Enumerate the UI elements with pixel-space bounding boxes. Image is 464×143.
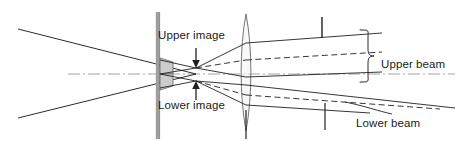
upper-beam-edge-top-out bbox=[246, 33, 382, 43]
upper-beam-edge-top-in bbox=[196, 43, 246, 68]
upper-beam-edge-bot-out bbox=[246, 72, 382, 77]
lower-beam-label: Lower beam bbox=[356, 118, 420, 130]
lower-beam-edge-top-out bbox=[246, 85, 455, 108]
upper-beam-edge-bot-in bbox=[196, 68, 246, 77]
arrow-up-icon bbox=[192, 81, 200, 100]
lower-beam-edge-bot-out bbox=[246, 105, 370, 113]
optical-ray-diagram: Upper image Lower image Upper beam Lower… bbox=[0, 0, 464, 143]
upper-beam-label: Upper beam bbox=[381, 59, 445, 71]
upper-image-label: Upper image bbox=[158, 30, 225, 42]
lower-image-label: Lower image bbox=[158, 100, 225, 112]
upper-beam-center-out bbox=[246, 52, 382, 60]
arrow-down-icon bbox=[192, 48, 200, 68]
